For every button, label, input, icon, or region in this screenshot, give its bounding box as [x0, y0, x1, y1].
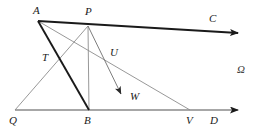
label-Q: Q — [9, 115, 17, 126]
label-A: A — [33, 5, 40, 16]
label-C: C — [209, 13, 216, 24]
label-W: W — [130, 91, 139, 102]
label-B: B — [84, 115, 91, 126]
label-omega: Ω — [237, 64, 245, 75]
label-U: U — [110, 47, 118, 58]
label-V: V — [186, 115, 193, 126]
geometry-canvas — [0, 0, 266, 137]
segment-P-to-B — [88, 26, 89, 110]
segment-A-to-V — [38, 21, 190, 110]
label-T: T — [42, 52, 48, 63]
segment-Q-to-P — [15, 26, 88, 110]
segment-A-to-C-ray — [38, 21, 238, 33]
segment-A-to-B — [38, 21, 89, 110]
geometry-diagram: A P C T U W Q B V D Ω — [0, 0, 266, 137]
label-P: P — [85, 6, 92, 17]
segment-P-to-W-ray — [88, 26, 121, 94]
label-D: D — [210, 115, 218, 126]
